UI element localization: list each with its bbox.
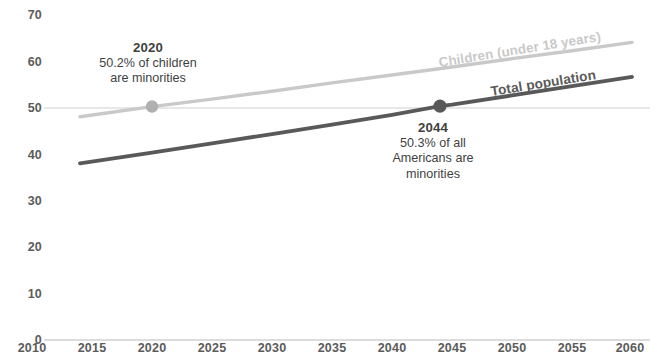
x-tick-2020: 2020 xyxy=(122,341,182,355)
x-tick-2060: 2060 xyxy=(600,341,657,355)
y-tick-60: 60 xyxy=(8,55,42,69)
x-tick-2045: 2045 xyxy=(422,341,482,355)
y-tick-50: 50 xyxy=(8,101,42,115)
x-tick-2040: 2040 xyxy=(362,341,422,355)
annotation-2044-line3: minorities xyxy=(358,167,508,183)
x-tick-2055: 2055 xyxy=(542,341,602,355)
y-tick-40: 40 xyxy=(8,148,42,162)
annotation-2044-line2: Americans are xyxy=(358,151,508,167)
y-tick-30: 30 xyxy=(8,194,42,208)
annotation-2020-line2: are minorities xyxy=(73,71,223,87)
annotation-2020-line1: 50.2% of children xyxy=(73,56,223,72)
line-series-total-population xyxy=(80,77,632,163)
x-tick-2015: 2015 xyxy=(62,341,122,355)
y-tick-20: 20 xyxy=(8,240,42,254)
marker-2044-total-population xyxy=(433,100,446,113)
annotation-2020-year: 2020 xyxy=(73,40,223,56)
annotation-2044: 2044 50.3% of all Americans are minoriti… xyxy=(358,120,508,182)
y-tick-10: 10 xyxy=(8,287,42,301)
x-tick-2030: 2030 xyxy=(242,341,302,355)
annotation-2044-year: 2044 xyxy=(358,120,508,136)
marker-2020-children xyxy=(146,100,158,112)
chart-container: 70 60 50 40 30 20 10 0 2010 2015 2020 20… xyxy=(0,0,657,359)
x-tick-2035: 2035 xyxy=(302,341,362,355)
x-tick-2050: 2050 xyxy=(482,341,542,355)
annotation-2020: 2020 50.2% of children are minorities xyxy=(73,40,223,87)
x-tick-2010: 2010 xyxy=(2,341,62,355)
y-tick-70: 70 xyxy=(8,8,42,22)
x-tick-2025: 2025 xyxy=(182,341,242,355)
annotation-2044-line1: 50.3% of all xyxy=(358,136,508,152)
